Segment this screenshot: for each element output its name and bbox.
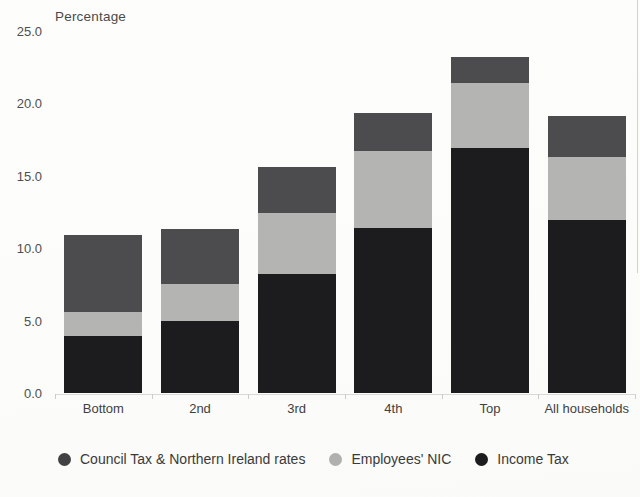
x-axis-category-label: 4th bbox=[384, 401, 402, 416]
bar-segment[interactable] bbox=[64, 336, 142, 393]
chart-container: Percentage 0.05.010.015.020.025.0Bottom2… bbox=[0, 0, 640, 497]
bar-segment[interactable] bbox=[451, 57, 529, 83]
plot-area: 0.05.010.015.020.025.0Bottom2nd3rd4thTop… bbox=[0, 0, 640, 497]
legend-color-dot-icon bbox=[329, 453, 342, 466]
x-axis-category-label: 2nd bbox=[189, 401, 211, 416]
x-axis-tick bbox=[55, 394, 56, 399]
legend-label: Council Tax & Northern Ireland rates bbox=[80, 451, 305, 467]
bar-segment[interactable] bbox=[451, 148, 529, 393]
bar-segment[interactable] bbox=[354, 228, 432, 393]
y-axis-tick-label: 20.0 bbox=[0, 96, 42, 111]
bar-segment[interactable] bbox=[548, 157, 626, 221]
bar-segment[interactable] bbox=[161, 284, 239, 320]
legend-color-dot-icon bbox=[58, 453, 71, 466]
bar-segment[interactable] bbox=[64, 312, 142, 337]
x-axis-tick bbox=[538, 394, 539, 399]
legend-item[interactable]: Council Tax & Northern Ireland rates bbox=[58, 451, 305, 467]
bar-segment[interactable] bbox=[548, 220, 626, 393]
y-axis-tick-label: 25.0 bbox=[0, 23, 42, 38]
chart-legend: Council Tax & Northern Ireland ratesEmpl… bbox=[58, 451, 618, 467]
legend-label: Employees' NIC bbox=[351, 451, 451, 467]
bar-segment[interactable] bbox=[258, 213, 336, 274]
x-axis-category-label: 3rd bbox=[287, 401, 306, 416]
x-axis-tick bbox=[442, 394, 443, 399]
bar-segment[interactable] bbox=[354, 151, 432, 228]
y-axis-tick-label: 0.0 bbox=[0, 386, 42, 401]
x-axis-tick bbox=[345, 394, 346, 399]
legend-color-dot-icon bbox=[475, 453, 488, 466]
x-axis-tick bbox=[152, 394, 153, 399]
x-axis-tick bbox=[248, 394, 249, 399]
bar-segment[interactable] bbox=[354, 113, 432, 151]
bar-segment[interactable] bbox=[548, 116, 626, 157]
legend-item[interactable]: Employees' NIC bbox=[329, 451, 451, 467]
y-axis-tick-label: 10.0 bbox=[0, 241, 42, 256]
bar-segment[interactable] bbox=[258, 167, 336, 213]
legend-label: Income Tax bbox=[497, 451, 568, 467]
bar-segment[interactable] bbox=[258, 274, 336, 393]
x-axis-category-label: Bottom bbox=[83, 401, 124, 416]
y-axis-tick-label: 5.0 bbox=[0, 313, 42, 328]
bar-segment[interactable] bbox=[64, 235, 142, 312]
x-axis-tick bbox=[635, 394, 636, 399]
y-axis-tick-label: 15.0 bbox=[0, 168, 42, 183]
bar-segment[interactable] bbox=[161, 321, 239, 394]
x-axis-category-label: All households bbox=[544, 401, 629, 416]
x-axis-category-label: Top bbox=[480, 401, 501, 416]
bar-segment[interactable] bbox=[161, 229, 239, 284]
legend-item[interactable]: Income Tax bbox=[475, 451, 568, 467]
bar-segment[interactable] bbox=[451, 83, 529, 148]
